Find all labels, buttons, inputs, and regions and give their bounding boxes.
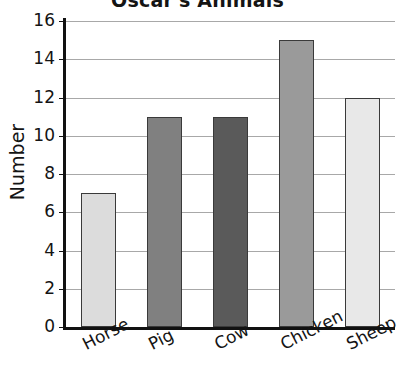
gridline <box>66 59 395 60</box>
gridline <box>66 21 395 22</box>
bar-sheep <box>345 98 380 328</box>
y-tick-mark <box>59 289 64 290</box>
y-tick-mark <box>59 212 64 213</box>
y-tick-label: 10 <box>15 127 55 144</box>
bar-pig <box>147 117 182 327</box>
y-tick-label: 12 <box>15 89 55 106</box>
bar-chicken <box>279 40 314 327</box>
y-tick-mark <box>59 21 64 22</box>
y-tick-mark <box>59 98 64 99</box>
y-tick-mark <box>59 251 64 252</box>
y-tick-label: 8 <box>15 165 55 182</box>
plot-area <box>66 21 395 327</box>
y-tick-label: 2 <box>15 280 55 297</box>
bar-horse <box>81 193 116 327</box>
bar-cow <box>213 117 248 327</box>
y-tick-mark <box>59 174 64 175</box>
y-tick-label: 14 <box>15 50 55 67</box>
y-tick-label: 4 <box>15 242 55 259</box>
y-tick-mark <box>59 327 64 328</box>
y-tick-label: 16 <box>15 12 55 29</box>
chart-title: Oscar's Animals <box>0 0 395 11</box>
y-tick-label: 0 <box>15 318 55 335</box>
y-tick-mark <box>59 59 64 60</box>
y-tick-mark <box>59 136 64 137</box>
y-tick-label: 6 <box>15 203 55 220</box>
